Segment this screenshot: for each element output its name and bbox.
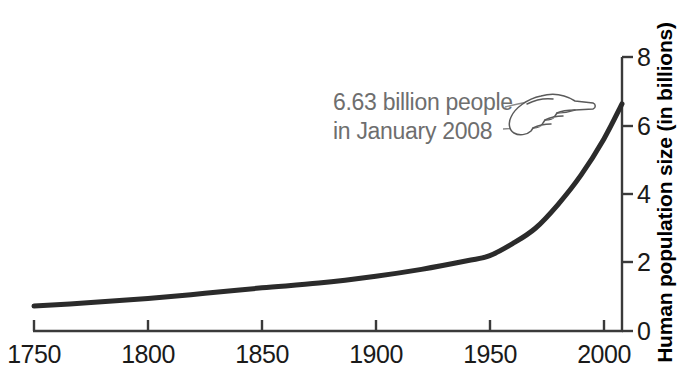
pointing-hand-icon	[505, 90, 597, 142]
annotation-line-1: 6.63 billion people	[333, 88, 513, 117]
chart-annotation: 6.63 billion people in January 2008	[333, 88, 513, 146]
x-axis-tick-label-1850: 1850	[235, 340, 289, 369]
plot-area	[0, 0, 690, 385]
population-growth-chart: 1750 1800 1850 1900 1950 2000 0 2 4 6 8 …	[0, 0, 690, 385]
annotation-line-2: in January 2008	[333, 117, 513, 146]
x-axis-tick-label-1900: 1900	[349, 340, 403, 369]
x-axis-tick-label-2000: 2000	[577, 340, 631, 369]
x-axis-tick-label-1750: 1750	[7, 340, 61, 369]
x-axis-tick-label-1800: 1800	[121, 340, 175, 369]
y-axis-title: Human population size (in billions)	[640, 0, 690, 385]
x-axis-tick-label-1950: 1950	[463, 340, 517, 369]
